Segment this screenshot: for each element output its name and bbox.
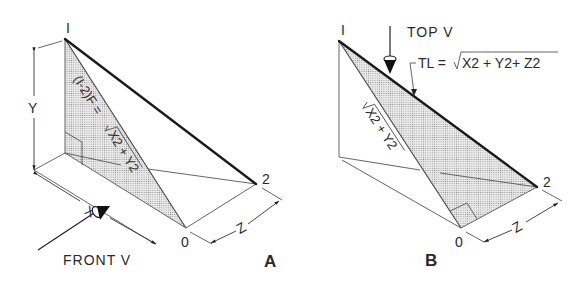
z-ext-left <box>190 232 212 244</box>
y-label-a: Y <box>28 100 38 116</box>
figure-b-label: B <box>425 251 437 270</box>
point-2-label-a: 2 <box>262 171 270 187</box>
point-1-label-b: I <box>341 22 345 38</box>
point-0-label-a: 0 <box>181 234 189 250</box>
tl-prefix: TL = <box>418 55 446 71</box>
x-dim-line-right <box>110 218 156 244</box>
top-view-label: TOP V <box>407 24 454 40</box>
figure-a-label: A <box>264 252 276 271</box>
z-ext-right <box>262 188 282 200</box>
z-dim-line-left <box>211 231 236 243</box>
edge-0-to-2 <box>186 184 256 228</box>
point-2-label-b: 2 <box>543 174 551 190</box>
tl-leader-line <box>410 63 416 93</box>
point-0-label-b: 0 <box>455 234 463 250</box>
z-label-a: Z <box>233 218 249 236</box>
z-dim-line-left-b <box>484 230 512 242</box>
top-view-arrowhead-icon <box>384 60 396 74</box>
figure-b: X2 + Y2 TOP V TL = X2 + Y2+ Z2 Z I 2 0 B <box>339 22 562 270</box>
tl-radicand: X2 + Y2+ Z2 <box>462 55 541 71</box>
figure-a: Y X Z I 2 0 (I-2)F = X2 + Y2 FRONT V A <box>28 20 282 271</box>
front-view-label: FRONT V <box>63 252 131 268</box>
front-view-arrow-shaft <box>38 213 94 250</box>
z-dim-line-right <box>248 201 279 224</box>
z-label-b: Z <box>509 217 525 235</box>
edge-left-top <box>34 153 65 170</box>
z-ext-right-b <box>542 190 562 201</box>
point-1-label-a: I <box>66 20 70 36</box>
z-ext-left-b <box>466 232 484 242</box>
y-ext-top <box>38 41 62 48</box>
diagram-canvas: Y X Z I 2 0 (I-2)F = X2 + Y2 FRONT V A <box>0 0 583 281</box>
z-dim-line-right-b <box>526 203 558 222</box>
x-dim-line-left <box>38 175 80 201</box>
edge-back-diag-b <box>339 157 420 170</box>
